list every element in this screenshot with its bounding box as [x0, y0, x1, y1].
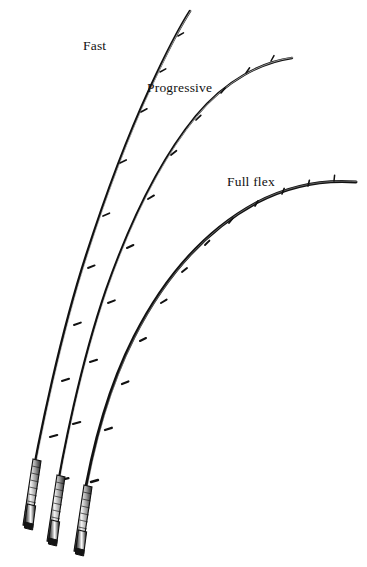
guide-ring [105, 428, 112, 430]
rod-full-flex-blank [78, 181, 356, 536]
guide-ring [148, 195, 154, 199]
guide-ring [50, 435, 57, 437]
guide-ring [160, 69, 166, 72]
rod-full-flex-grip [74, 485, 92, 556]
rod-full-flex [74, 175, 356, 556]
guide-ring [108, 300, 115, 303]
rod-full-flex-guides [91, 175, 335, 482]
rod-progressive-blank [51, 58, 293, 527]
guide-ring [103, 213, 109, 216]
guide-ring [182, 268, 187, 272]
rod-label-full-flex: Full flex [227, 175, 275, 189]
butt-cap [75, 548, 84, 556]
blank-outline-back [78, 182, 356, 536]
blank-outline-back [51, 58, 292, 527]
guide-ring [271, 56, 274, 61]
guide-ring [62, 379, 69, 381]
butt-cap [48, 538, 57, 546]
rod-action-figure: Fast Progressive Full flex [0, 0, 367, 567]
blank-highlight [53, 58, 293, 526]
guide-ring [178, 33, 184, 36]
guide-ring [205, 241, 209, 245]
rod-label-progressive: Progressive [147, 81, 212, 95]
rod-progressive [47, 56, 293, 546]
blank-highlight [80, 181, 357, 535]
rod-label-fast: Fast [83, 39, 106, 53]
guide-ring [90, 360, 97, 362]
guide-ring [88, 265, 95, 268]
guide-ring [74, 323, 81, 325]
guide-ring [161, 300, 167, 303]
rod-progressive-grip [47, 475, 65, 546]
rod-progressive-guides [61, 56, 274, 480]
butt-cap [24, 522, 33, 530]
rod-fast-grip [23, 459, 41, 530]
guide-ring [127, 245, 133, 248]
guide-ring [334, 175, 335, 181]
guide-ring [282, 188, 284, 194]
guide-ring [122, 381, 128, 384]
guide-ring [73, 422, 80, 424]
guide-ring [140, 338, 146, 341]
guide-ring [91, 480, 98, 482]
